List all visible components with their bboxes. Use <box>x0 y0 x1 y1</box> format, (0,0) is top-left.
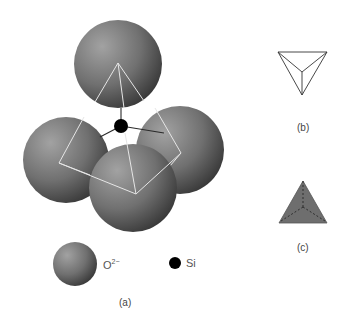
panel-c-solid-tetrahedron <box>279 181 327 223</box>
oxygen-symbol: O <box>103 259 112 271</box>
oxygen-charge: 2− <box>112 258 120 265</box>
panel-c-label: (c) <box>297 242 309 253</box>
panel-a-label: (a) <box>119 297 131 308</box>
legend-silicon-label: Si <box>186 257 196 269</box>
panel-b-wireframe-tetrahedron <box>278 52 327 95</box>
silicon-atom <box>114 119 128 133</box>
legend-silicon-dot <box>169 257 181 269</box>
silicate-tetrahedron-diagram <box>0 0 346 321</box>
panel-a-model <box>23 20 224 232</box>
oxygen-sphere-front <box>89 144 177 232</box>
legend-oxygen-label: O2− <box>103 258 120 271</box>
legend-oxygen-sphere <box>53 242 97 286</box>
panel-b-label: (b) <box>297 122 309 133</box>
